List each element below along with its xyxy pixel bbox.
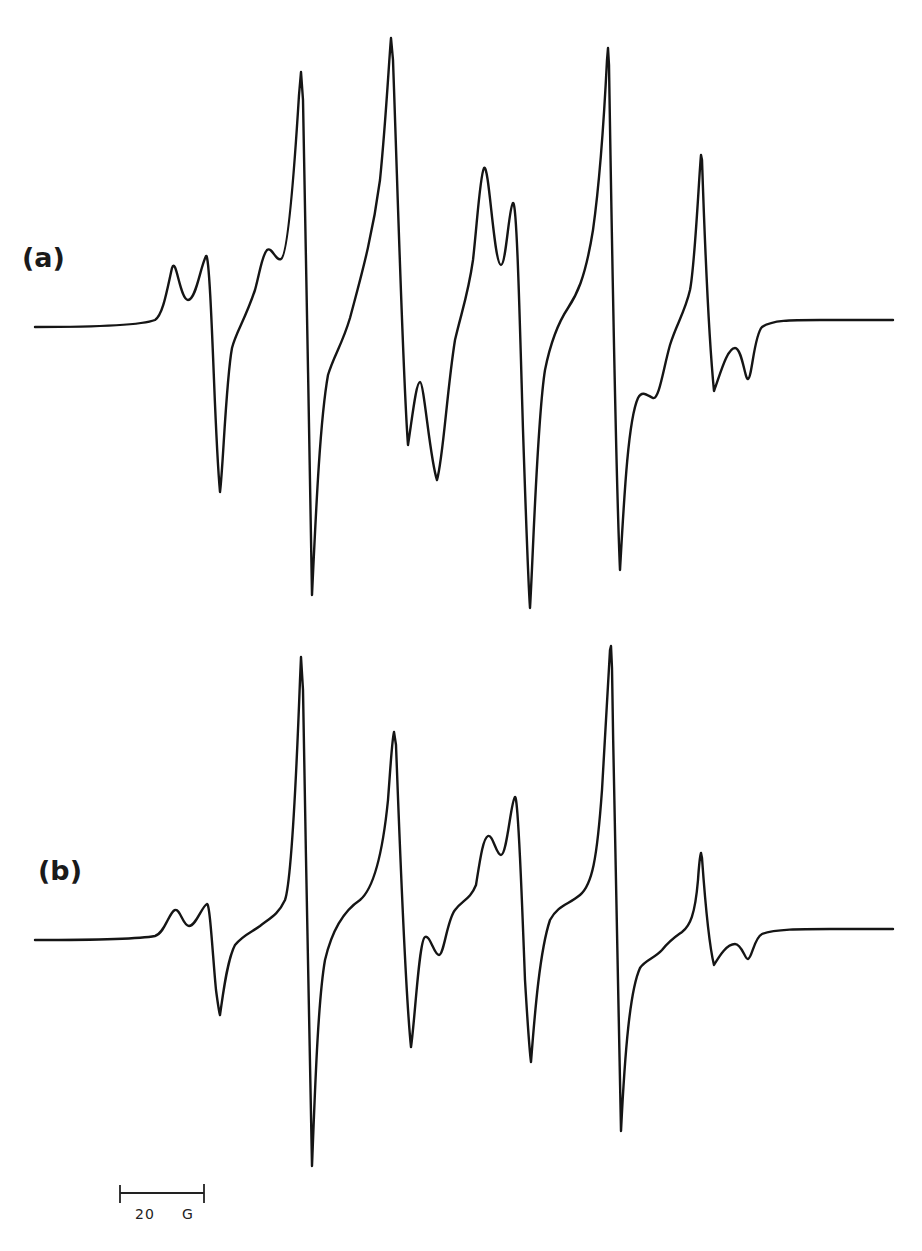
scale-bar-value: 20 — [135, 1206, 155, 1222]
spectrum-a-trace — [35, 38, 893, 608]
spectrum-b-trace — [35, 646, 893, 1166]
scale-bar — [120, 1184, 204, 1203]
epr-spectra-plot — [0, 0, 922, 1251]
scale-bar-unit: G — [182, 1206, 194, 1222]
